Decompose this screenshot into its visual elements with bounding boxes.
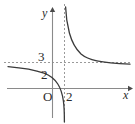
y-tick-label-3: 3: [38, 50, 45, 63]
curve-left-branch: [8, 67, 64, 122]
y-axis-label: y: [42, 7, 47, 19]
graph-canvas: [0, 0, 135, 124]
x-axis-label: x: [123, 89, 128, 101]
hyperbola-graph-figure: 3 2 2 O y x: [0, 0, 135, 124]
x-tick-label-2: 2: [66, 90, 73, 103]
origin-label: O: [43, 90, 52, 103]
curve-right-branch: [66, 7, 130, 64]
y-axis-arrowhead: [50, 7, 55, 12]
x-axis-arrowhead: [128, 86, 133, 91]
y-tick-label-2: 2: [41, 68, 48, 81]
